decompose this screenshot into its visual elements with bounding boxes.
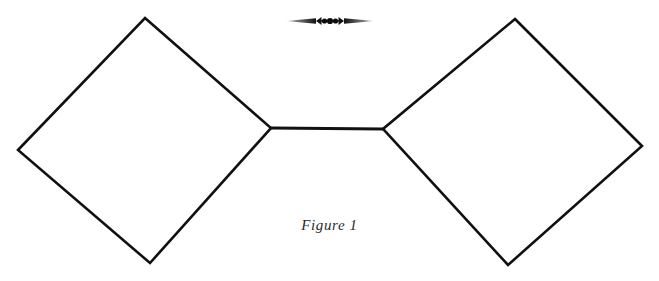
figure-caption: Figure 1	[0, 215, 659, 235]
fleuron-divider-icon	[285, 17, 375, 25]
figure-canvas	[0, 0, 659, 281]
connector-segment	[271, 128, 383, 129]
figure-page: Figure 1	[0, 0, 659, 281]
